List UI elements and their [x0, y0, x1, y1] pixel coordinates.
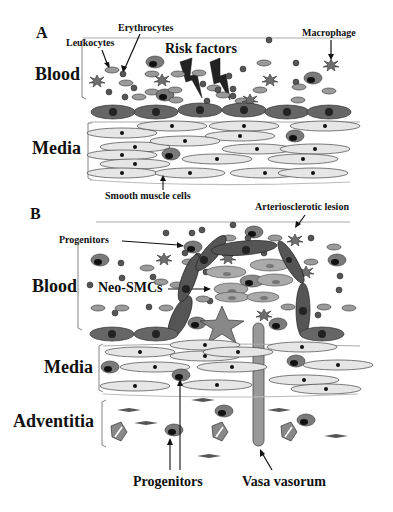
blood-label-b: Blood [32, 276, 77, 296]
risk-factor-bolt-1 [180, 58, 202, 98]
arteriosclerotic-lesion-label: Arteriosclerotic lesion [255, 201, 349, 212]
endothelium-a [91, 103, 351, 119]
adventitia-label: Adventitia [13, 411, 94, 431]
erythrocytes-label: Erythrocytes [118, 22, 173, 33]
smooth-muscle-cells-label: Smooth muscle cells [105, 190, 191, 201]
blood-bracket-a [82, 40, 86, 99]
vasa-vasorum [253, 323, 264, 446]
macrophage-label: Macrophage [302, 27, 356, 38]
progenitors-arrow-top [122, 241, 178, 245]
progenitors-arrowhead-top [177, 242, 184, 248]
vasa-vasorum-arrow [262, 453, 272, 470]
neo-smcs-label: Neo-SMCs [98, 280, 163, 295]
vasa-vasorum-label: Vasa vasorum [242, 474, 326, 489]
adventitia-cells [111, 398, 348, 458]
neo-smcs-arrowhead [204, 286, 211, 292]
star-cell [200, 306, 244, 343]
blood-bracket-b [78, 240, 82, 330]
media-label-a: Media [32, 138, 81, 158]
blood-label-a: Blood [35, 64, 80, 84]
panel-b: B Arteriosclerotic lesion Progenitors Bl… [13, 201, 373, 489]
risk-factors-label: Risk factors [165, 41, 237, 56]
figure: A Blood Erythrocytes Leukocytes Risk fac… [0, 0, 393, 512]
panel-a-letter: A [36, 24, 48, 41]
smooth-muscle-layer-a [87, 121, 360, 185]
progenitors-arrowhead-1 [167, 438, 173, 445]
leukocytes-label: Leukocytes [66, 37, 114, 48]
panel-b-letter: B [30, 205, 41, 222]
adventitia-bracket [102, 400, 106, 447]
smooth-muscle-layer-b [100, 340, 373, 397]
progenitors-label-top: Progenitors [59, 234, 109, 245]
erythrocytes-arrow [125, 34, 140, 68]
media-label-b: Media [44, 357, 93, 377]
panel-a: A Blood Erythrocytes Leukocytes Risk fac… [32, 22, 360, 201]
progenitors-label-bottom: Progenitors [133, 474, 203, 489]
